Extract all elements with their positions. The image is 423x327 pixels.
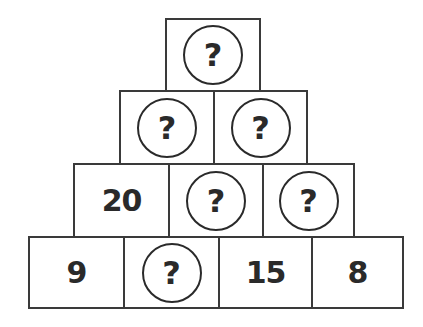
unknown-circle: ? xyxy=(142,243,202,303)
unknown-circle: ? xyxy=(137,98,197,158)
question-mark: ? xyxy=(299,185,318,217)
unknown-circle: ? xyxy=(231,98,291,158)
question-mark: ? xyxy=(251,112,270,144)
pyramid-cell-r3-c1: 20 xyxy=(73,163,170,238)
unknown-circle: ? xyxy=(279,171,339,231)
pyramid-cell-r4-c1: 9 xyxy=(28,236,125,309)
pyramid-cell-r2-c1: ? xyxy=(119,90,215,165)
question-mark: ? xyxy=(158,112,177,144)
pyramid-cell-r4-c4: 8 xyxy=(311,236,404,309)
question-mark: ? xyxy=(207,185,226,217)
number-pyramid: ? ? ? 20 ? ? 9 ? 15 8 xyxy=(0,0,423,327)
unknown-circle: ? xyxy=(186,171,246,231)
pyramid-cell-r1-c1: ? xyxy=(165,18,261,92)
pyramid-cell-r3-c2: ? xyxy=(168,163,264,238)
cell-number: 8 xyxy=(348,255,368,290)
cell-number: 15 xyxy=(246,255,286,290)
pyramid-cell-r3-c3: ? xyxy=(262,163,355,238)
pyramid-cell-r4-c2: ? xyxy=(123,236,220,309)
cell-number: 9 xyxy=(67,255,87,290)
cell-number: 20 xyxy=(102,183,142,218)
pyramid-cell-r4-c3: 15 xyxy=(218,236,313,309)
question-mark: ? xyxy=(204,39,223,71)
question-mark: ? xyxy=(162,257,181,289)
pyramid-cell-r2-c2: ? xyxy=(213,90,308,165)
unknown-circle: ? xyxy=(183,25,243,85)
